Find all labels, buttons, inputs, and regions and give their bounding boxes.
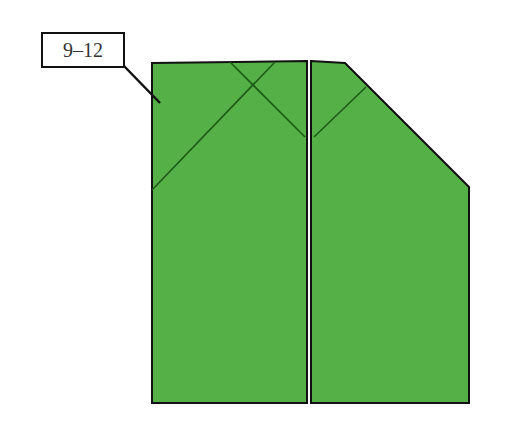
left-paper-panel [152,61,307,403]
step-label: 9–12 [41,32,125,68]
right-paper-panel [311,61,469,403]
